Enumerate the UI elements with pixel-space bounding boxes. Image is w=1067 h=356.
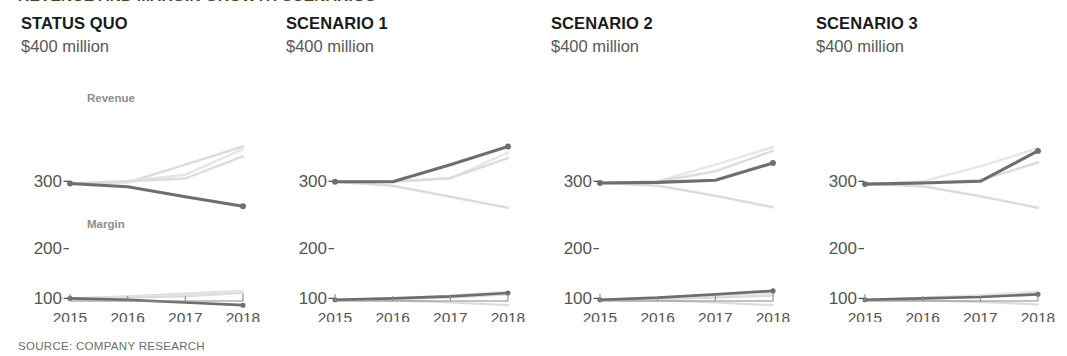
line-chart-svg: 300200100RevenueMargin2015201620172018 — [0, 60, 265, 322]
panel-header: SCENARIO 1$400 million — [265, 14, 530, 57]
chart-panel: STATUS QUO$400 million300200100RevenueMa… — [0, 14, 265, 324]
x-tick-label: 2016 — [905, 309, 939, 322]
revenue-ghost-line — [600, 183, 773, 207]
panel-subtitle: $400 million — [816, 35, 1060, 57]
margin-series-label: Margin — [87, 218, 125, 230]
y-tick-label: 300 — [34, 172, 62, 191]
y-tick-label: 300 — [564, 172, 592, 191]
y-tick-label: 200 — [829, 239, 857, 258]
headline-strip: REVENUE AND MARGIN GROWTH SCENARIOS — [18, 0, 1048, 5]
x-tick-label: 2015 — [53, 309, 87, 322]
x-tick-label: 2015 — [583, 309, 617, 322]
y-tick-label: 200 — [564, 239, 592, 258]
x-tick-label: 2017 — [433, 309, 467, 322]
x-tick-label: 2017 — [168, 309, 202, 322]
x-tick-label: 2016 — [110, 309, 144, 322]
line-chart-svg: 3002001002015201620172018 — [530, 60, 795, 322]
revenue-ghost-line — [335, 158, 508, 182]
x-tick-label: 2017 — [963, 309, 997, 322]
y-tick-label: 300 — [829, 172, 857, 191]
panel-header: STATUS QUO$400 million — [0, 14, 265, 57]
x-tick-label: 2016 — [640, 309, 674, 322]
headline-text: REVENUE AND MARGIN GROWTH SCENARIOS — [18, 0, 1048, 5]
source-note: SOURCE: COMPANY RESEARCH — [18, 340, 205, 352]
x-tick-label: 2016 — [375, 309, 409, 322]
panel-plot: 300200100RevenueMargin2015201620172018 — [0, 60, 265, 322]
panel-grid: STATUS QUO$400 million300200100RevenueMa… — [0, 14, 1067, 324]
chart-panel: SCENARIO 2$400 million300200100201520162… — [530, 14, 795, 324]
y-tick-label: 300 — [299, 172, 327, 191]
line-chart-svg: 3002001002015201620172018 — [795, 60, 1060, 322]
x-tick-label: 2018 — [756, 309, 790, 322]
x-tick-label: 2018 — [491, 309, 525, 322]
x-tick-label: 2015 — [848, 309, 882, 322]
panel-header: SCENARIO 2$400 million — [530, 14, 795, 57]
y-tick-label: 100 — [299, 289, 327, 308]
panel-plot: 3002001002015201620172018 — [795, 60, 1060, 322]
y-tick-label: 100 — [829, 289, 857, 308]
panel-header: SCENARIO 3$400 million — [795, 14, 1060, 57]
x-tick-label: 2015 — [318, 309, 352, 322]
x-tick-label: 2018 — [1021, 309, 1055, 322]
panel-subtitle: $400 million — [551, 35, 795, 57]
panel-subtitle: $400 million — [286, 35, 530, 57]
line-chart-svg: 3002001002015201620172018 — [265, 60, 530, 322]
revenue-ghost-line — [865, 184, 1038, 208]
y-tick-label: 200 — [299, 239, 327, 258]
revenue-ghost-line — [335, 182, 508, 208]
revenue-series-label: Revenue — [87, 92, 135, 104]
chart-panel: SCENARIO 1$400 million300200100201520162… — [265, 14, 530, 324]
panel-title: STATUS QUO — [21, 14, 265, 33]
y-tick-label: 200 — [34, 239, 62, 258]
x-tick-label: 2017 — [698, 309, 732, 322]
revenue-highlight-line — [67, 181, 246, 210]
revenue-highlight-line — [862, 148, 1041, 187]
panel-subtitle: $400 million — [21, 35, 265, 57]
panel-title: SCENARIO 2 — [551, 14, 795, 33]
y-tick-label: 100 — [34, 289, 62, 308]
panel-title: SCENARIO 3 — [816, 14, 1060, 33]
panel-plot: 3002001002015201620172018 — [530, 60, 795, 322]
y-tick-label: 100 — [564, 289, 592, 308]
chart-panel: SCENARIO 3$400 million300200100201520162… — [795, 14, 1060, 324]
panel-plot: 3002001002015201620172018 — [265, 60, 530, 322]
x-tick-label: 2018 — [226, 309, 260, 322]
panel-title: SCENARIO 1 — [286, 14, 530, 33]
